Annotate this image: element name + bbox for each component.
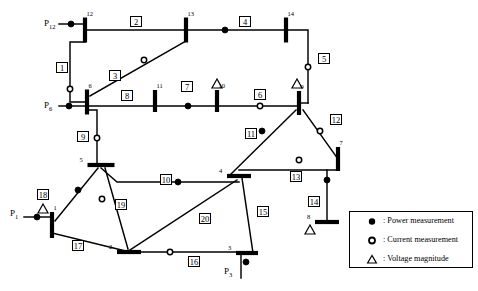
line-18-label: 18 bbox=[37, 189, 49, 200]
legend-current-text: : Current measurement bbox=[383, 235, 458, 244]
bus-7-label: 7 bbox=[340, 139, 343, 146]
line-17-label: 17 bbox=[72, 240, 84, 251]
p3-label: P3 bbox=[224, 266, 232, 278]
pm-line18 bbox=[75, 187, 81, 193]
pm-bus3-injection bbox=[243, 259, 249, 265]
pm-bus6-injection bbox=[66, 103, 72, 109]
bus-5-label: 5 bbox=[80, 156, 83, 163]
vm-bus8 bbox=[305, 225, 315, 234]
branch-line-15 bbox=[242, 178, 253, 253]
p12-subscript: 12 bbox=[49, 23, 56, 30]
branch-line-1 bbox=[70, 42, 87, 102]
line-6-label: 6 bbox=[254, 89, 266, 100]
line-8-label: 8 bbox=[121, 90, 133, 101]
bus-10-label: 10 bbox=[219, 82, 226, 89]
p3-subscript: 3 bbox=[229, 271, 232, 278]
legend-power-text: : Power measurement bbox=[383, 216, 454, 225]
legend-current: : Current measurement bbox=[350, 231, 474, 250]
legend-power: : Power measurement bbox=[350, 212, 474, 231]
bus-8-label: 8 bbox=[307, 213, 310, 220]
cm-line1 bbox=[67, 86, 72, 91]
line-14-label: 14 bbox=[308, 196, 320, 207]
cm-line12 bbox=[317, 128, 322, 133]
power-measurement-markers bbox=[34, 21, 330, 265]
pm-line10 bbox=[175, 179, 181, 185]
line-2-label: 2 bbox=[130, 16, 142, 27]
line-5-label: 5 bbox=[318, 53, 330, 64]
bus-14-label: 14 bbox=[288, 10, 295, 17]
line-20-label: 20 bbox=[199, 213, 211, 224]
line-11-label: 11 bbox=[245, 128, 257, 139]
branch-line-17 bbox=[52, 233, 126, 251]
legend-voltage: : Voltage magnitude bbox=[350, 250, 474, 269]
bus-11-label: 11 bbox=[157, 82, 163, 89]
branch-line-3 bbox=[90, 41, 186, 96]
p1-subscript: 1 bbox=[15, 213, 18, 220]
line-12-label: 12 bbox=[330, 114, 342, 125]
line-4-label: 4 bbox=[239, 16, 251, 27]
open-circle-icon bbox=[364, 231, 380, 250]
line-3-label: 3 bbox=[109, 70, 121, 81]
pm-line14 bbox=[324, 177, 330, 183]
pm-line11 bbox=[259, 128, 265, 134]
vm-bus1 bbox=[38, 204, 48, 213]
line-16-label: 16 bbox=[188, 256, 200, 267]
bus-12-label: 12 bbox=[87, 10, 94, 17]
bus-4-label: 4 bbox=[219, 167, 222, 174]
branch-line-11 bbox=[229, 110, 296, 176]
bus-3-label: 3 bbox=[228, 244, 231, 251]
line-15-label: 15 bbox=[257, 206, 269, 217]
p1-label: P1 bbox=[10, 208, 18, 220]
line-1-label: 1 bbox=[56, 62, 68, 73]
triangle-icon bbox=[364, 250, 380, 269]
cm-line16 bbox=[167, 249, 172, 254]
line-7-label: 7 bbox=[181, 81, 193, 92]
branch-line-18 bbox=[55, 168, 98, 221]
cm-line19 bbox=[99, 196, 104, 201]
diagram-canvas: 1234567891011121314151617181920 12345678… bbox=[0, 0, 478, 291]
pm-line7 bbox=[185, 103, 191, 109]
bus-2-label: 2 bbox=[109, 243, 112, 250]
bus-13-label: 13 bbox=[188, 10, 195, 17]
line-13-label: 13 bbox=[290, 171, 302, 182]
branch-line-20 bbox=[130, 180, 237, 250]
line-10-label: 10 bbox=[160, 174, 172, 185]
line-9-label: 9 bbox=[77, 131, 89, 142]
filled-circle-icon bbox=[364, 212, 380, 231]
cm-line6 bbox=[257, 103, 262, 108]
bus-9-label: 9 bbox=[301, 83, 304, 90]
cm-line13 bbox=[296, 157, 301, 162]
p6-subscript: 6 bbox=[49, 105, 52, 112]
p12-label: P12 bbox=[44, 18, 56, 30]
line-19-label: 19 bbox=[115, 199, 127, 210]
p6-label: P6 bbox=[44, 100, 52, 112]
pm-bus12-injection bbox=[68, 21, 74, 27]
cm-line3 bbox=[141, 57, 146, 62]
pm-line4 bbox=[222, 27, 228, 33]
pm-bus1-injection bbox=[34, 214, 40, 220]
bus-1-label: 1 bbox=[54, 204, 57, 211]
cm-line5 bbox=[305, 64, 310, 69]
legend-box: : Power measurement: Current measurement… bbox=[349, 211, 473, 268]
bus-6-label: 6 bbox=[89, 82, 92, 89]
cm-line9 bbox=[94, 135, 99, 140]
legend-voltage-text: : Voltage magnitude bbox=[383, 254, 449, 263]
